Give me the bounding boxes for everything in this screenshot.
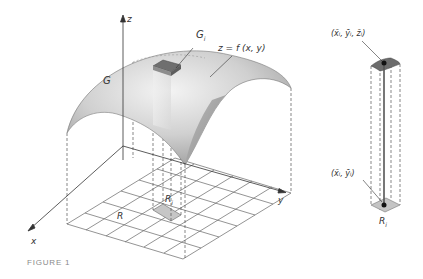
patch-label: Gi [196,29,206,42]
region-grid [67,158,291,259]
detail-base-label: Ri [379,216,387,228]
top-point-dot [382,61,387,66]
top-point-label: (x̄ᵢ, ȳᵢ, z̄ᵢ) [331,29,365,38]
patch-label-sub: i [204,35,206,42]
base-point-dot [382,203,387,208]
x-axis-label: x [30,236,37,246]
figure-canvas: z x y G Gi z = f (x, y) R Ri (x̄ᵢ, ȳᵢ, z… [0,0,423,279]
region-label: R [117,211,123,221]
surface-label: G [103,75,111,86]
base-point-label: (x̄ᵢ, ȳᵢ) [331,169,355,178]
subregion-label-sub: i [171,199,173,206]
z-axis-label: z [126,14,132,24]
detail-column [362,41,400,212]
function-label: z = f (x, y) [217,43,265,53]
detail-base-label-sub: i [385,221,387,228]
figure-caption: FIGURE 1 [27,258,70,267]
y-axis-label: y [277,195,284,205]
